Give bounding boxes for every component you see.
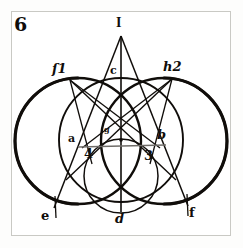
point-label-d: d [115, 212, 124, 225]
point-label-right-upper: h2 [163, 60, 182, 73]
point-label-left-upper: ſ1 [52, 62, 67, 75]
centre-point-marker [119, 138, 123, 142]
point-label-4: 4 [84, 147, 93, 160]
point-label-3: 3 [144, 149, 153, 162]
figure-root: 6 I ſ1 h2 c g a b 4 3 e d f [0, 0, 243, 248]
point-label-I: I [116, 16, 122, 30]
point-label-e: e [41, 209, 49, 222]
point-label-a: a [68, 133, 75, 144]
point-label-c: c [110, 65, 117, 76]
point-label-f: f [189, 206, 195, 219]
plate-number-label: 6 [14, 15, 27, 34]
point-label-b: b [157, 128, 166, 141]
point-label-g: g [104, 125, 110, 133]
line-right-lower-vertical [187, 194, 188, 216]
right-circle-heavy-arc [164, 78, 227, 204]
